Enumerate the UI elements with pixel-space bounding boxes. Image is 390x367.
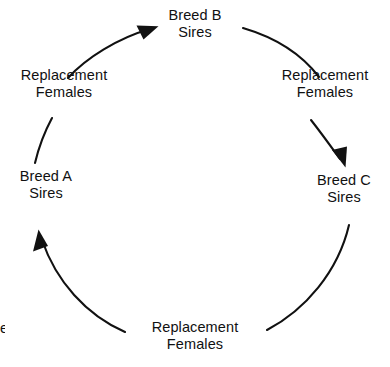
edge-label-replacement-females-upper-right: Replacement Females [263,67,387,101]
crossbreeding-cycle-diagram: Breed B Sires Breed C Sires Breed A Sire… [0,0,390,367]
node-breed-b-sires: Breed B Sires [143,7,247,41]
node-breed-a-sires: Breed A Sires [2,168,90,202]
edge-breed-c-to-females [267,225,349,330]
edge-label-upper-right-line1: Replacement [263,67,387,84]
edge-label-replacement-females-upper-left: Replacement Females [2,67,126,101]
edge-label-bottom-line1: Replacement [133,319,257,336]
edge-females-to-breed-c [311,120,347,168]
edge-label-bottom-line2: Females [133,336,257,353]
node-breed-a-line2: Sires [2,185,90,202]
node-breed-b-line1: Breed B [143,7,247,24]
node-breed-c-line1: Breed C [300,172,388,189]
node-breed-c-line2: Sires [300,189,388,206]
node-breed-c-sires: Breed C Sires [300,172,388,206]
clipped-text-fragment: e [0,322,5,334]
edge-label-replacement-females-bottom: Replacement Females [133,319,257,353]
edge-females-to-breed-a [33,230,125,333]
edge-label-upper-left-line2: Females [2,84,126,101]
edge-label-upper-left-line1: Replacement [2,67,126,84]
edge-label-upper-right-line2: Females [263,84,387,101]
node-breed-b-line2: Sires [143,24,247,41]
node-breed-a-line1: Breed A [2,168,90,185]
arrowhead-down-icon [332,147,347,168]
edge-breed-a-to-females [35,118,52,163]
